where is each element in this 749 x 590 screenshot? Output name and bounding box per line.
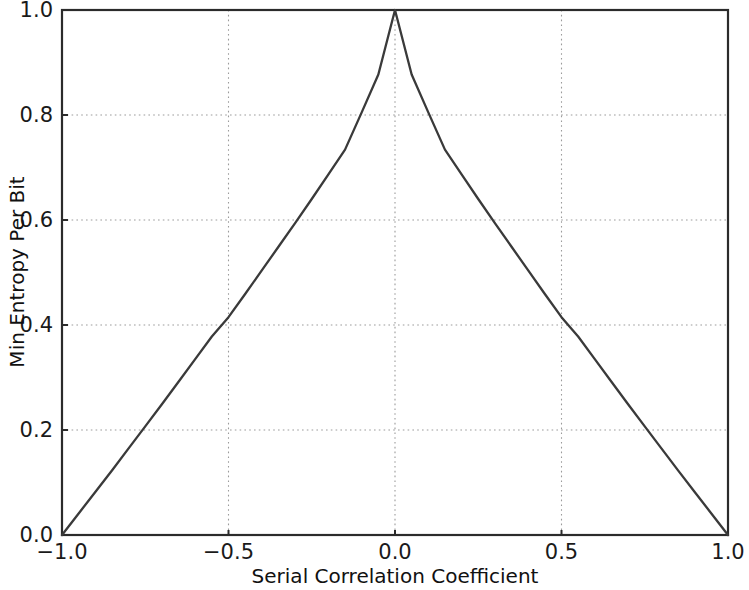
x-tick-label: 0.0 [378,540,411,564]
x-tick-label: −0.5 [203,540,254,564]
y-tick-label: 0.8 [20,103,53,127]
x-axis-tick-labels: −1.0−0.50.00.51.0 [37,540,745,564]
x-tick-label: 0.5 [545,540,578,564]
tick-marks [62,10,728,535]
y-axis-title: Min Entropy Per Bit [5,176,29,367]
chart-figure: −1.0−0.50.00.51.0 0.00.20.40.60.81.0 Ser… [0,0,749,590]
x-axis-title: Serial Correlation Coefficient [252,564,539,588]
y-tick-label: 0.0 [20,523,53,547]
plot-frame [62,10,728,535]
data-series-line [62,10,728,535]
x-tick-label: 1.0 [711,540,744,564]
y-tick-label: 1.0 [20,0,53,22]
chart-canvas: −1.0−0.50.00.51.0 0.00.20.40.60.81.0 Ser… [0,0,749,590]
gridlines [62,10,728,535]
y-tick-label: 0.2 [20,418,53,442]
